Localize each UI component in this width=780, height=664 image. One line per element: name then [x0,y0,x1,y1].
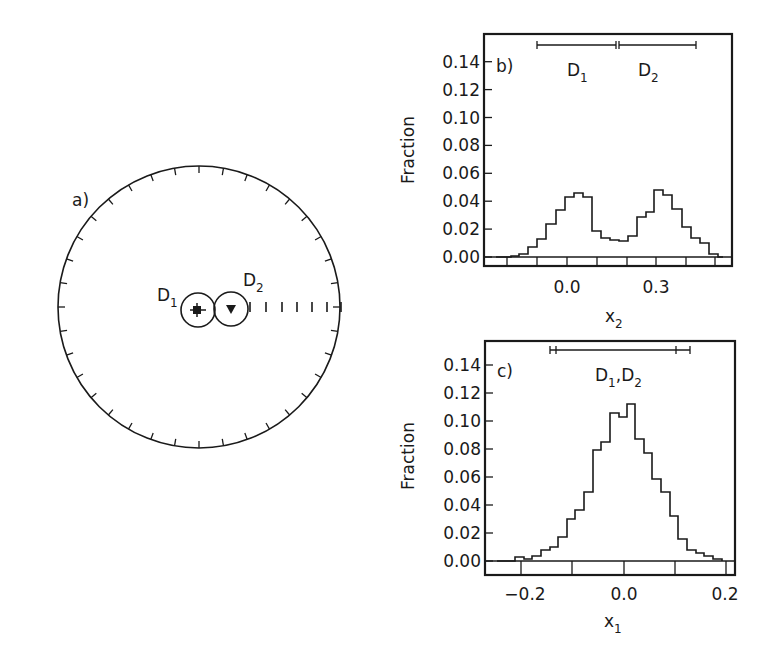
panel-b-xlabel: x2 [605,306,623,331]
panel-b-d2-label: D2 [638,60,659,85]
panel-b-xticks [484,257,732,266]
panel-c-xticks [485,561,735,575]
panel-b-interval-bars [537,41,696,49]
ytick-label: 0.10 [442,108,480,128]
ytick-label: 0.02 [443,523,481,543]
panel-b-xtick-1: 0.3 [642,277,669,297]
ytick-label: 0.02 [442,219,480,239]
panel-b-label: b) [496,56,513,76]
panel-c-d-label: D1,D2 [595,365,642,390]
d2-label: D2 [243,270,264,295]
panel-b: 0.000.020.040.060.080.100.120.14 b) D1 D… [398,34,732,331]
ytick-label: 0.08 [443,439,481,459]
ytick-label: 0.06 [442,163,480,183]
panel-c: 0.000.020.040.060.080.100.120.14 c) D1,D… [398,341,739,636]
ytick-label: 0.12 [442,80,480,100]
ytick-label: 0.04 [442,191,480,211]
ytick-label: 0.00 [443,551,481,571]
ytick-label: 0.08 [442,135,480,155]
panel-a: a) D1 D2 [58,166,341,448]
ytick-label: 0.00 [442,247,480,267]
panel-c-xtick-1: 0.0 [610,584,637,604]
panel-b-d1-label: D1 [567,60,588,85]
panel-c-xlabel: x1 [604,611,622,636]
panel-c-xtick-2: 0.2 [711,584,738,604]
panel-c-interval-bars [550,346,690,354]
panel-b-ylabel: Fraction [398,116,418,184]
ytick-label: 0.12 [443,383,481,403]
panel-c-ylabel: Fraction [398,422,418,490]
ytick-label: 0.04 [443,495,481,515]
ytick-label: 0.10 [443,411,481,431]
ytick-label: 0.14 [443,355,481,375]
panel-c-label: c) [497,361,513,381]
d2-marker-icon [226,305,236,314]
panel-b-xtick-0: 0.0 [553,277,580,297]
panel-c-histogram [497,404,722,561]
panel-c-xtick-0: −0.2 [504,584,545,604]
panel-a-label: a) [72,190,89,210]
panel-b-histogram [496,190,723,257]
ytick-label: 0.14 [442,52,480,72]
radial-scale-marks [250,302,341,312]
ytick-label: 0.06 [443,467,481,487]
panel-b-frame [484,34,732,266]
figure: a) D1 D2 0.000.020.040.060.080.100.120.1… [0,0,780,664]
d1-marker-icon [190,303,206,317]
d1-label: D1 [157,285,178,310]
